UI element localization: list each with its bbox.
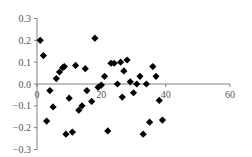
data-point-diamond [119, 94, 126, 101]
data-point-diamond [40, 52, 47, 59]
data-points [37, 35, 166, 138]
data-point-diamond [66, 95, 73, 102]
x-tick-label: 20 [96, 89, 106, 100]
data-point-diamond [123, 56, 130, 63]
data-point-diamond [133, 80, 140, 87]
x-tick-label: 60 [225, 89, 235, 100]
data-point-diamond [53, 75, 60, 82]
data-point-diamond [130, 89, 137, 96]
y-tick-label: 0.0 [19, 79, 32, 90]
data-point-diamond [136, 73, 143, 80]
y-tick-label: −0.2 [13, 122, 31, 133]
x-tick-label: 0 [35, 89, 40, 100]
y-tick-label: −0.1 [13, 100, 31, 111]
data-point-diamond [143, 80, 150, 87]
data-point-diamond [140, 131, 147, 138]
data-point-diamond [159, 116, 166, 123]
data-point-diamond [46, 87, 53, 94]
x-tick-label: 40 [161, 89, 171, 100]
data-point-diamond [91, 35, 98, 42]
data-point-diamond [114, 80, 121, 87]
y-tick-label: 0.1 [19, 57, 32, 68]
data-point-diamond [88, 98, 95, 105]
y-tick-label: 0.3 [19, 13, 32, 24]
data-point-diamond [49, 103, 56, 110]
data-point-diamond [117, 59, 124, 66]
data-point-diamond [82, 65, 89, 72]
data-point-diamond [146, 119, 153, 126]
data-point-diamond [37, 37, 44, 44]
data-point-diamond [83, 87, 90, 94]
scatter-chart: 0.30.20.10.0−0.1−0.2−0.3 0204060 [0, 0, 252, 157]
y-tick-label: −0.3 [13, 144, 31, 155]
data-point-diamond [101, 73, 108, 80]
data-point-diamond [72, 62, 79, 69]
data-point-diamond [120, 67, 127, 74]
y-axis: 0.30.20.10.0−0.1−0.2−0.3 [13, 13, 37, 155]
data-point-diamond [69, 128, 76, 135]
data-point-diamond [43, 118, 50, 125]
data-point-diamond [62, 131, 69, 138]
y-tick-label: 0.2 [19, 35, 32, 46]
data-point-diamond [149, 63, 156, 70]
data-point-diamond [152, 73, 159, 80]
data-point-diamond [104, 127, 111, 134]
